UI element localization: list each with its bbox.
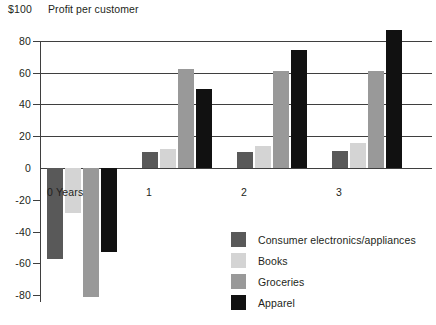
legend-label: Groceries <box>258 276 304 288</box>
bar <box>237 152 253 168</box>
y-axis-tick-label: 80 <box>19 35 31 47</box>
legend-swatch <box>231 295 246 310</box>
legend-item: Books <box>231 250 431 271</box>
bar <box>142 152 158 168</box>
legend-label: Consumer electronics/appliances <box>258 234 416 246</box>
gridline <box>40 41 432 42</box>
legend-item: Apparel <box>231 292 431 313</box>
profit-per-customer-chart: $100 Profit per customer 806040200-20-40… <box>0 0 436 325</box>
y-axis-tick-label: -80 <box>15 289 31 301</box>
chart-title: Profit per customer <box>48 3 139 15</box>
y-axis-tick <box>33 263 40 264</box>
bar <box>368 71 384 168</box>
x-axis-tick-label: 0 Years <box>47 186 83 198</box>
y-axis-tick-label: 40 <box>19 98 31 110</box>
x-axis-labels: 0 Years123 <box>40 186 432 204</box>
legend-label: Books <box>258 255 288 267</box>
x-axis-tick-label: 1 <box>146 186 152 198</box>
bar <box>101 168 117 252</box>
y-axis-labels: 806040200-20-40-60-80 <box>0 36 31 300</box>
bar <box>386 30 402 168</box>
y-axis-tick <box>33 104 40 105</box>
bar <box>291 50 307 168</box>
y-axis-tick-label: -60 <box>15 257 31 269</box>
y-axis-tick-label: 60 <box>19 67 31 79</box>
bar <box>350 143 366 168</box>
y-axis-unit-label: $100 <box>8 3 32 15</box>
y-axis-tick-label: 0 <box>25 162 31 174</box>
chart-legend: Consumer electronics/appliancesBooksGroc… <box>231 229 431 313</box>
x-axis-tick-label: 2 <box>241 186 247 198</box>
bar <box>255 146 271 168</box>
legend-item: Consumer electronics/appliances <box>231 229 431 250</box>
y-axis-tick <box>33 232 40 233</box>
bar <box>332 151 348 168</box>
y-axis-tick-label: 20 <box>19 130 31 142</box>
bar <box>47 168 63 259</box>
y-axis-tick <box>33 41 40 42</box>
legend-swatch <box>231 274 246 289</box>
bar <box>273 71 289 168</box>
y-axis-tick <box>33 295 40 296</box>
bar <box>178 69 194 168</box>
y-axis-tick-label: -40 <box>15 226 31 238</box>
legend-swatch <box>231 232 246 247</box>
legend-item: Groceries <box>231 271 431 292</box>
legend-label: Apparel <box>258 297 295 309</box>
bar <box>160 149 176 168</box>
bar <box>196 89 212 169</box>
y-axis-tick <box>33 200 40 201</box>
y-axis-tick-label: -20 <box>15 194 31 206</box>
y-axis-tick <box>33 73 40 74</box>
y-axis-tick <box>33 136 40 137</box>
legend-swatch <box>231 253 246 268</box>
y-axis-line <box>40 41 41 302</box>
x-axis-tick-label: 3 <box>336 186 342 198</box>
